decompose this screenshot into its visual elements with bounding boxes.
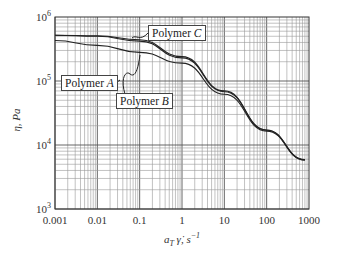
x-tick-label: 0.01 — [88, 214, 107, 226]
x-axis-ticks: 0.0010.010.11101001000 — [43, 214, 321, 226]
y-tick-label: 103 — [36, 201, 51, 215]
x-tick-label: 1 — [179, 214, 185, 226]
x-axis-label: aT γ̇, s−1 — [164, 231, 200, 248]
polymer-c-label: Polymer C — [148, 25, 206, 41]
y-tick-label: 105 — [36, 73, 51, 87]
y-axis-label: η, Pa — [10, 108, 22, 132]
y-tick-label: 104 — [36, 137, 51, 151]
polymer-a-label: Polymer A — [61, 75, 118, 91]
x-tick-label: 0.1 — [133, 214, 147, 226]
x-tick-label: 1000 — [298, 214, 321, 226]
y-tick-label: 106 — [36, 9, 51, 23]
x-tick-label: 10 — [219, 214, 231, 226]
x-tick-label: 0.001 — [43, 214, 68, 226]
polymer-b-label: Polymer B — [116, 93, 173, 109]
x-tick-label: 100 — [258, 214, 275, 226]
y-axis-ticks: 103104105106 — [36, 9, 51, 215]
